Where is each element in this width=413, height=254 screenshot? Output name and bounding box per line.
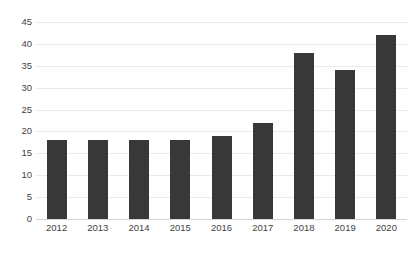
bar-2015 — [170, 140, 190, 219]
bar-2014 — [129, 140, 149, 219]
x-axis-tick-label: 2013 — [77, 223, 118, 233]
x-axis-tick-label: 2016 — [201, 223, 242, 233]
x-axis-tick-label: 2014 — [118, 223, 159, 233]
bar-2017 — [253, 123, 273, 219]
y-axis-tick-label: 5 — [0, 192, 32, 202]
bar-2018 — [294, 53, 314, 219]
y-axis-tick-label: 10 — [0, 170, 32, 180]
x-axis-tick-label: 2018 — [283, 223, 324, 233]
bar-2016 — [212, 136, 232, 219]
y-axis-tick-label: 0 — [0, 214, 32, 224]
x-axis-tick-label: 2020 — [366, 223, 407, 233]
y-axis-tick-label: 35 — [0, 61, 32, 71]
x-axis-tick-label: 2012 — [36, 223, 77, 233]
x-axis-tick-label: 2015 — [160, 223, 201, 233]
y-axis-tick-label: 40 — [0, 39, 32, 49]
bar-2013 — [88, 140, 108, 219]
x-axis: 201220132014201520162017201820192020 — [36, 223, 407, 241]
y-axis-tick-label: 15 — [0, 149, 32, 159]
y-axis-tick-label: 20 — [0, 127, 32, 137]
y-axis-tick-label: 25 — [0, 105, 32, 115]
bar-2020 — [376, 35, 396, 219]
y-axis-tick-label: 45 — [0, 17, 32, 27]
bar-chart: 051015202530354045 201220132014201520162… — [0, 0, 413, 254]
bar-2012 — [47, 140, 67, 219]
bars-layer — [36, 22, 407, 219]
x-axis-tick-label: 2019 — [325, 223, 366, 233]
y-axis: 051015202530354045 — [0, 22, 32, 219]
x-axis-tick-label: 2017 — [242, 223, 283, 233]
bar-2019 — [335, 70, 355, 219]
y-axis-tick-label: 30 — [0, 83, 32, 93]
axis-baseline — [36, 219, 407, 220]
